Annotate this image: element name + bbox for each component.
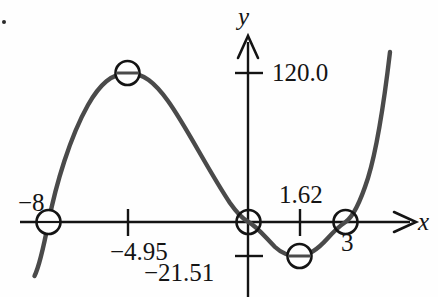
graph-figure: y x 120.0 −8 −4.95 −21.51 1.62 3 bbox=[0, 0, 438, 297]
x-axis-label: x bbox=[418, 209, 429, 234]
x-root-left-label: −8 bbox=[18, 190, 45, 215]
cubic-curve-path bbox=[35, 52, 391, 276]
y-tick-label-neg2151: −21.51 bbox=[144, 260, 214, 285]
y-tick-label-120: 120.0 bbox=[272, 60, 328, 85]
x-root-right-label: 3 bbox=[341, 230, 354, 255]
y-axis-label: y bbox=[238, 4, 249, 29]
plot-canvas bbox=[0, 0, 438, 297]
x-tick-label-162: 1.62 bbox=[279, 182, 323, 207]
